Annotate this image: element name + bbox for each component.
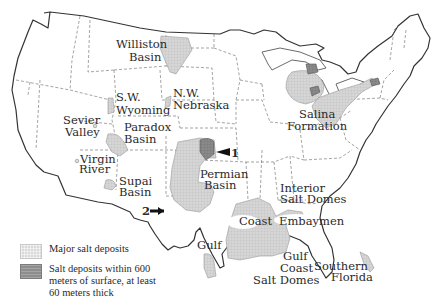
label-sevier-2: Valley bbox=[64, 125, 100, 139]
label-williston-1: Williston bbox=[116, 37, 168, 51]
legend-label-shallow: Salt deposits within 600 meters of surfa… bbox=[49, 263, 159, 299]
label-supai-2: Basin bbox=[119, 185, 152, 199]
label-southern-florida-2: Florida bbox=[331, 270, 373, 284]
label-salina-2: Formation bbox=[287, 119, 348, 133]
label-permian-2: Basin bbox=[204, 178, 237, 192]
label-paradox-2: Basin bbox=[124, 132, 157, 146]
legend-item-major: Major salt deposits bbox=[20, 243, 220, 259]
shallow-salt-swatch bbox=[20, 264, 42, 279]
label-interior-2: Salt Domes bbox=[280, 192, 347, 206]
label-sw-wyoming-2: Wyoming bbox=[116, 103, 171, 117]
deposit-sw-wyoming bbox=[108, 98, 114, 114]
svg-text:2: 2 bbox=[142, 204, 150, 218]
map-legend: Major salt deposits Salt deposits within… bbox=[20, 243, 220, 300]
label-virgin-2: River bbox=[79, 162, 111, 176]
legend-item-shallow: Salt deposits within 600 meters of surfa… bbox=[20, 263, 220, 299]
label-williston-2: Basin bbox=[129, 50, 162, 64]
label-nw-nebraska-2: Nebraska bbox=[173, 98, 229, 112]
label-embayment: Embaymen bbox=[279, 214, 345, 228]
label-coast: Coast bbox=[239, 214, 272, 228]
label-sw-wyoming-1: S.W. bbox=[116, 90, 141, 104]
legend-label-major: Major salt deposits bbox=[49, 243, 129, 255]
major-salt-swatch bbox=[20, 244, 42, 259]
svg-text:1: 1 bbox=[231, 146, 239, 160]
shallow-michigan-north bbox=[306, 64, 318, 74]
label-gulf-coast-3: Salt Domes bbox=[253, 273, 320, 287]
